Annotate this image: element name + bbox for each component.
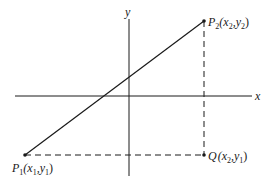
segment-p1-p2 (25, 21, 204, 155)
point-p2 (202, 19, 206, 23)
point-p1 (23, 153, 27, 157)
label-q: Q(x2,y1) (208, 149, 247, 165)
label-p2: P2(x2,y2) (207, 15, 249, 31)
y-axis-label: y (124, 5, 131, 19)
label-p1: P1(x1,y1) (11, 161, 53, 177)
distance-formula-diagram: y x P2(x2,y2) P1(x1,y1) Q(x2,y1) (0, 0, 274, 184)
x-axis-label: x (254, 89, 261, 103)
diagram-svg: y x P2(x2,y2) P1(x1,y1) Q(x2,y1) (0, 0, 274, 184)
point-q (202, 153, 206, 157)
